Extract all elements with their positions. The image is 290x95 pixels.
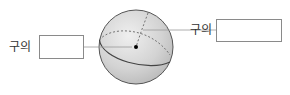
left-label: 구의 [9,40,31,54]
right-label: 구의 [190,23,212,37]
left-answer-box[interactable] [39,35,84,59]
right-answer-box[interactable] [216,19,282,42]
center-point [134,45,138,49]
sphere-diagram: 구의 구의 [0,0,290,95]
